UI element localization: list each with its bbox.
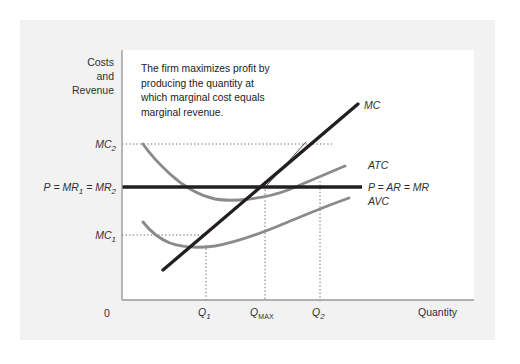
curve-label-atc: ATC [368,159,388,172]
figure-root: Costs and Revenue MC2 P = MR1 = MR2 MC1 … [0,0,520,364]
x-tick-q2: Q2 [312,306,325,322]
curve-label-mc: MC [364,99,380,112]
y-axis-title-line1: Costs [38,56,114,69]
curve-atc [143,144,345,200]
curve-label-avc: AVC [368,195,389,208]
x-tick-origin: 0 [104,307,110,320]
x-tick-qmax: QMAX [250,306,274,322]
x-axis-title: Quantity [418,306,457,319]
y-axis-title-line3: Revenue [38,84,114,97]
annotation-text: The firm maximizes profit by producing t… [141,62,273,120]
y-tick-mc2: MC2 [68,138,116,154]
curve-label-price-ar-mr: P = AR = MR [368,181,429,194]
y-tick-mc1: MC1 [68,229,116,245]
x-tick-q1: Q1 [198,306,211,322]
y-axis-title-line2: and [38,70,114,83]
curve-avc [143,198,349,247]
y-tick-price-mr: P = MR1 = MR2 [22,181,116,197]
